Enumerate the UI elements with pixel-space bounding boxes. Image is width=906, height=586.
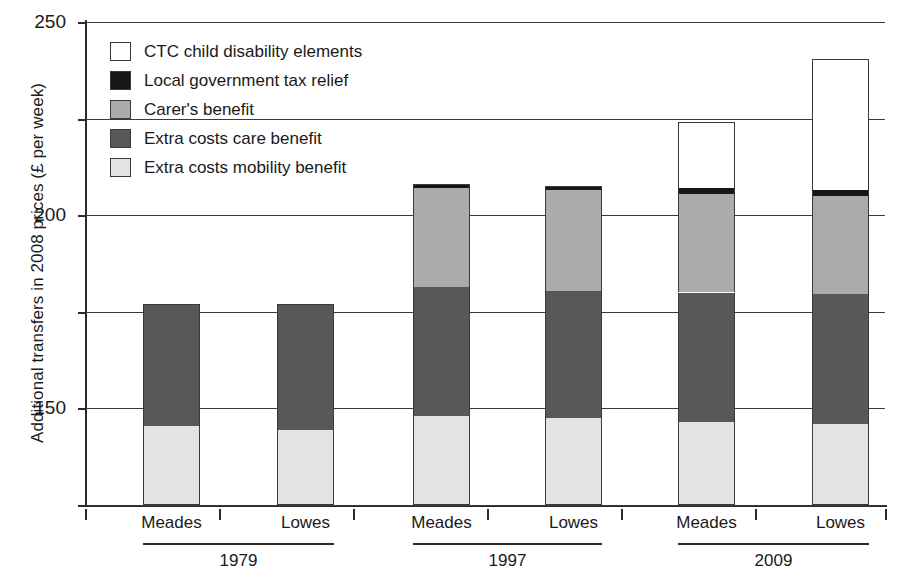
bar-segment-local-government-tax-relief [413,184,470,188]
legend-swatch-icon [110,129,131,148]
legend-label: Carer's benefit [144,100,254,120]
x-label-1997-meades: Meades [399,513,484,533]
legend-item-carer-s-benefit[interactable]: Carer's benefit [110,96,362,123]
chart-legend: CTC child disability elementsLocal gover… [110,38,362,183]
y-tick-0: 0 [78,505,86,507]
gridline-100 [85,312,885,313]
bar-segment-carer-s-benefit [413,188,470,287]
bar-segment-extra-costs-mobility-benefit [545,418,602,505]
group-rule-1997 [413,543,602,545]
bar-segment-carer-s-benefit [678,194,735,293]
x-axis-tick [219,509,221,520]
legend-item-extra-costs-care-benefit[interactable]: Extra costs care benefit [110,125,362,152]
x-axis-tick [755,509,757,520]
bar-segment-local-government-tax-relief [545,186,602,190]
bar-segment-extra-costs-care-benefit [413,287,470,416]
gridline-250 [85,22,885,23]
x-label-1979-lowes: Lowes [263,513,348,533]
x-axis-tick [621,509,623,520]
bar-segment-extra-costs-care-benefit [277,304,334,430]
bar-segment-carer-s-benefit [545,190,602,290]
bar-segment-extra-costs-care-benefit [678,293,735,422]
y-tick-label-250: 250 [34,11,66,33]
y-tick-250: 250 [78,22,86,24]
y-tick-150: 150 [78,215,86,217]
bar-segment-extra-costs-mobility-benefit [413,416,470,505]
y-tick-200: 200 [78,119,86,121]
legend-label: Extra costs mobility benefit [144,158,346,178]
bar-segment-extra-costs-mobility-benefit [277,430,334,505]
group-year-2009: 2009 [678,551,869,571]
bar-segment-extra-costs-care-benefit [545,291,602,419]
x-axis-tick [487,509,489,520]
legend-swatch-icon [110,100,131,119]
group-rule-2009 [678,543,869,545]
x-label-1997-lowes: Lowes [531,513,616,533]
x-label-2009-meades: Meades [664,513,749,533]
bar-segment-extra-costs-mobility-benefit [143,426,200,505]
gridline-0 [85,505,885,506]
bar-segment-ctc-child-disability-elements [678,122,735,188]
x-axis-tick [353,509,355,520]
bar-segment-extra-costs-care-benefit [143,304,200,426]
y-axis-title: Additional transfers in 2008 prices (£ p… [28,13,48,513]
x-axis-tick [885,509,887,520]
legend-label: Local government tax relief [144,71,348,91]
bar-segment-ctc-child-disability-elements [812,59,869,190]
y-tick-50: 50 [78,408,86,410]
y-tick-100: 100 [78,312,86,314]
bar-segment-extra-costs-mobility-benefit [812,424,869,505]
y-tick-label-150: 150 [34,397,66,419]
group-rule-1979 [143,543,334,545]
legend-swatch-icon [110,71,131,90]
legend-item-ctc-child-disability-elements[interactable]: CTC child disability elements [110,38,362,65]
legend-item-extra-costs-mobility-benefit[interactable]: Extra costs mobility benefit [110,154,362,181]
gridline-150 [85,215,885,216]
stacked-bar-chart: Additional transfers in 2008 prices (£ p… [0,0,906,586]
x-label-2009-lowes: Lowes [798,513,883,533]
x-axis-group-labels: MeadesLowes1979MeadesLowes1997MeadesLowe… [85,509,887,586]
y-tick-label-200: 200 [34,204,66,226]
gridline-50 [85,408,885,409]
legend-label: Extra costs care benefit [144,129,322,149]
bar-segment-local-government-tax-relief [678,188,735,194]
legend-swatch-icon [110,42,131,61]
bar-segment-local-government-tax-relief [812,190,869,196]
legend-item-local-government-tax-relief[interactable]: Local government tax relief [110,67,362,94]
legend-swatch-icon [110,158,131,177]
group-year-1979: 1979 [143,551,334,571]
bar-segment-carer-s-benefit [812,196,869,295]
x-axis-tick [85,509,87,520]
group-year-1997: 1997 [413,551,602,571]
bar-segment-extra-costs-mobility-benefit [678,422,735,505]
legend-label: CTC child disability elements [144,42,362,62]
bar-segment-extra-costs-care-benefit [812,294,869,423]
x-label-1979-meades: Meades [129,513,214,533]
